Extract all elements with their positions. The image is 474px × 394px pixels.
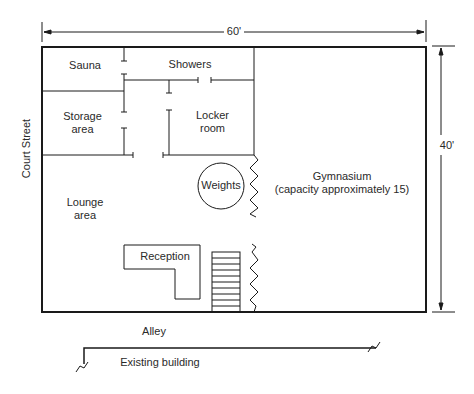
height-dimension — [432, 46, 455, 312]
room-lounge: Lounge area — [60, 196, 110, 222]
existing-building-label: Existing building — [110, 356, 210, 369]
folding-partition-upper — [250, 155, 258, 217]
width-label: 60' — [222, 25, 246, 38]
stairs — [212, 252, 240, 312]
room-locker: Locker room — [185, 109, 240, 135]
room-storage: Storage area — [55, 110, 110, 136]
room-weights: Weights — [197, 179, 245, 192]
room-sauna: Sauna — [60, 59, 110, 72]
height-label: 40' — [436, 139, 458, 152]
folding-partition-lower — [250, 244, 258, 312]
street-label: Court Street — [20, 109, 33, 189]
alley-label: Alley — [134, 325, 174, 338]
room-gymnasium: Gymnasium (capacity approximately 15) — [262, 170, 422, 196]
room-showers: Showers — [160, 58, 220, 71]
room-reception: Reception — [133, 250, 197, 263]
